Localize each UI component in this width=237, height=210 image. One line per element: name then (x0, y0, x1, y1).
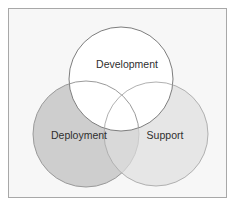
diagram-frame: Development Deployment Support (8, 8, 227, 198)
venn-circle-development[interactable] (69, 27, 173, 131)
venn-label-development: Development (96, 58, 158, 70)
figure-root: Development Deployment Support (0, 0, 237, 210)
venn-diagram: Development Deployment Support (9, 9, 226, 197)
venn-label-support: Support (147, 129, 184, 141)
venn-label-deployment: Deployment (51, 129, 107, 141)
